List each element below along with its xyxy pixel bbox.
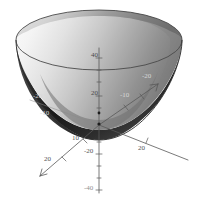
- surface-plot-canvas: [0, 0, 198, 204]
- axis-x-right-ticks: [146, 138, 148, 143]
- vertex-marker: [98, 112, 101, 115]
- tick-label-x-left-20: 20: [44, 156, 51, 163]
- tick-label-x-left-10: 10: [72, 135, 79, 142]
- tick-label-x-right-20: 20: [138, 145, 145, 152]
- tick-label-y-far-neg20: -20: [33, 93, 42, 100]
- origin-marker: [97, 122, 100, 125]
- tick-label-y-neg20: -20: [142, 73, 151, 80]
- tick-label-y-far-neg10: -10: [40, 110, 49, 117]
- tick-label-y-neg10: -10: [120, 92, 129, 99]
- axis-x-front-right: [99, 125, 188, 160]
- plot-figure: 40 20 -20 -40 -20 -10 20 10 20 -20 -10: [0, 0, 198, 204]
- tick-label-z-neg40: -40: [84, 185, 93, 192]
- tick-label-z-20: 20: [91, 90, 98, 97]
- tick-label-z-neg20: -20: [84, 148, 93, 155]
- tick-label-z-40: 40: [91, 52, 98, 59]
